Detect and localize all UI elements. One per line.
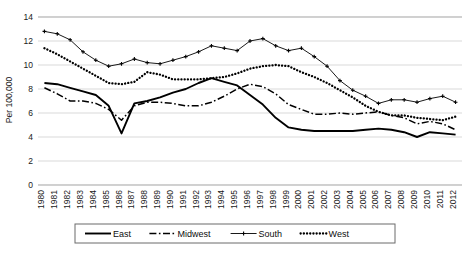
legend-label-west: West <box>329 229 350 239</box>
x-tick-label: 2012 <box>448 190 458 209</box>
x-tick-label: 1988 <box>139 190 149 209</box>
y-tick-label: 2 <box>28 156 33 166</box>
x-tick-label: 1987 <box>126 190 136 209</box>
x-tick-label: 1993 <box>203 190 213 209</box>
x-tick-label: 1999 <box>281 190 291 209</box>
x-tick-label: 1980 <box>36 190 46 209</box>
x-tick-label: 2008 <box>396 190 406 209</box>
x-tick-label: 1989 <box>152 190 162 209</box>
x-tick-label: 2007 <box>383 190 393 209</box>
y-axis-title: Per 100,000 <box>4 77 14 124</box>
x-tick-label: 1983 <box>75 190 85 209</box>
x-tick-label: 1991 <box>178 190 188 209</box>
legend-label-east: East <box>113 229 132 239</box>
legend-label-south: South <box>259 229 283 239</box>
x-tick-label: 1986 <box>114 190 124 209</box>
x-tick-label: 2004 <box>345 190 355 209</box>
x-tick-label: 2006 <box>370 190 380 209</box>
chart-canvas: 02468101214 1980198119821983198419851986… <box>0 0 470 254</box>
x-tick-label: 2009 <box>409 190 419 209</box>
x-tick-label: 1981 <box>49 190 59 209</box>
x-tick-label: 1996 <box>242 190 252 209</box>
x-tick-label: 1997 <box>255 190 265 209</box>
y-tick-label: 14 <box>24 12 34 22</box>
x-tick-label: 2001 <box>306 190 316 209</box>
x-tick-label: 1995 <box>229 190 239 209</box>
x-tick-label: 1984 <box>88 190 98 209</box>
line-chart: 02468101214 1980198119821983198419851986… <box>0 0 470 254</box>
y-tick-label: 0 <box>28 180 33 190</box>
chart-legend: EastMidwestSouthWest <box>75 224 395 243</box>
x-tick-label: 1982 <box>62 190 72 209</box>
legend-label-midwest: Midwest <box>177 229 211 239</box>
x-tick-label: 2011 <box>435 190 445 209</box>
y-tick-label: 12 <box>24 36 34 46</box>
x-tick-label: 2010 <box>422 190 432 209</box>
x-tick-label: 1992 <box>191 190 201 209</box>
x-tick-label: 2002 <box>319 190 329 209</box>
y-tick-label: 8 <box>28 84 33 94</box>
y-tick-label: 6 <box>28 108 33 118</box>
y-tick-label: 4 <box>28 132 33 142</box>
x-tick-label: 2000 <box>293 190 303 209</box>
x-tick-label: 2003 <box>332 190 342 209</box>
y-tick-label: 10 <box>24 60 34 70</box>
x-tick-label: 1994 <box>216 190 226 209</box>
x-tick-label: 1985 <box>101 190 111 209</box>
x-tick-label: 1990 <box>165 190 175 209</box>
x-tick-label: 1998 <box>268 190 278 209</box>
x-tick-label: 2005 <box>358 190 368 209</box>
